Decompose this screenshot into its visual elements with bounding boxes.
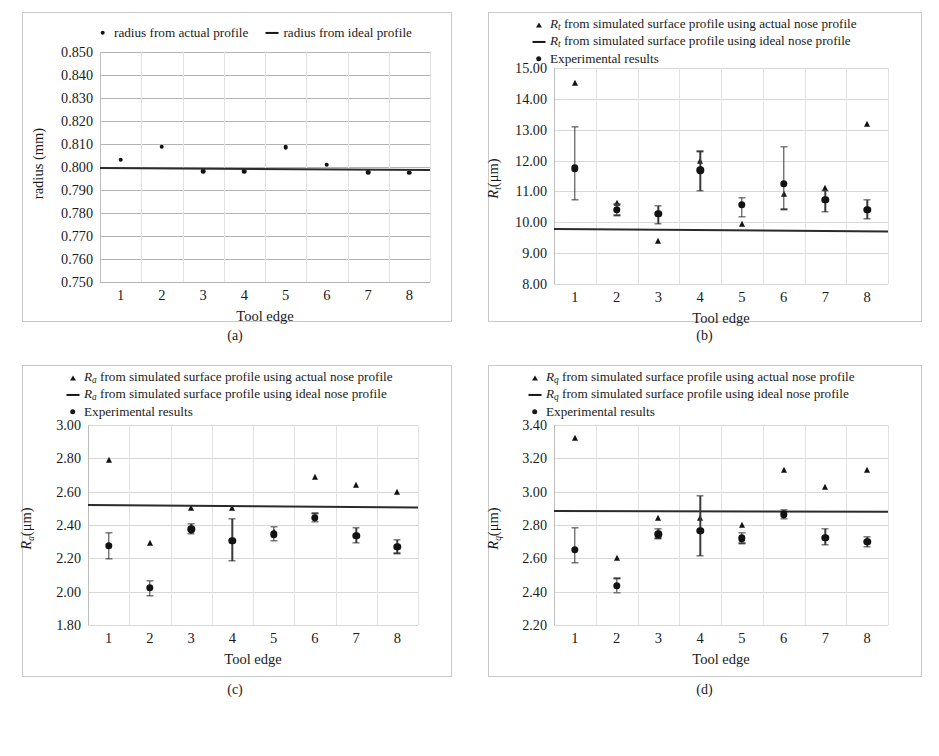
- gridline-vertical: [846, 68, 847, 284]
- y-axis-tick-label: 9.00: [522, 245, 547, 262]
- y-axis-tick-label: 0.790: [61, 182, 93, 199]
- error-bar-cap: [655, 223, 662, 224]
- y-axis-tick-label: 2.40: [56, 517, 81, 534]
- data-point-triangle: [822, 483, 828, 489]
- gridline-vertical: [888, 425, 889, 625]
- x-axis-tick-label: 7: [822, 630, 829, 647]
- x-axis-tick-label: 2: [158, 287, 165, 304]
- data-point-dot: [325, 162, 330, 167]
- x-axis-tick-label: 1: [571, 630, 578, 647]
- y-axis-tick-label: 2.60: [522, 550, 547, 567]
- gridline-horizontal: [100, 282, 430, 283]
- error-bar-cap: [697, 495, 704, 496]
- y-axis-tick-label: 2.20: [522, 617, 547, 634]
- error-bar-cap: [394, 553, 401, 554]
- legend-row: Rt from simulated surface profile using …: [532, 16, 857, 33]
- x-axis-tick-label: 3: [655, 289, 662, 306]
- y-axis-tick-label: 0.800: [61, 159, 93, 176]
- panel-c-y-axis-label: Ra(μm): [18, 469, 35, 589]
- y-axis-tick-label: 2.00: [56, 583, 81, 600]
- panel-a: radius from actual profile radius from i…: [0, 0, 470, 355]
- error-bar: [574, 127, 575, 200]
- error-bar-cap: [571, 126, 578, 127]
- legend-label: Rt from simulated surface profile using …: [550, 32, 851, 51]
- data-point-triangle: [655, 515, 661, 521]
- error-bar-cap: [229, 560, 236, 561]
- y-axis-tick-label: 0.830: [61, 90, 93, 107]
- data-point-triangle: [312, 473, 318, 479]
- error-bar-cap: [864, 199, 871, 200]
- panel-a-y-axis-label: radius (mm): [30, 104, 47, 224]
- panel-b: Rt from simulated surface profile using …: [470, 0, 939, 355]
- data-point-triangle: [614, 555, 620, 561]
- error-bar-cap: [822, 544, 829, 545]
- x-axis-tick-label: 2: [613, 630, 620, 647]
- gridline-horizontal: [88, 625, 418, 626]
- y-axis-line: [554, 425, 555, 625]
- y-axis-tick-label: 2.80: [56, 450, 81, 467]
- y-axis-tick-label: 13.00: [515, 121, 547, 138]
- legend-row: Rq from simulated surface profile using …: [528, 386, 855, 403]
- y-axis-tick-label: 0.850: [61, 44, 93, 61]
- gridline-vertical: [430, 52, 431, 282]
- y-axis-tick-label: 3.40: [522, 417, 547, 434]
- panel-c-legend: Ra from simulated surface profile using …: [66, 369, 393, 420]
- legend-row: radius from actual profile radius from i…: [96, 24, 412, 41]
- data-point-dot: [283, 145, 288, 150]
- panel-c-caption: (c): [0, 682, 470, 698]
- triangle-marker-icon: [66, 371, 79, 384]
- x-axis-tick-label: 1: [105, 630, 112, 647]
- gridline-vertical: [212, 425, 213, 625]
- error-bar-cap: [613, 204, 620, 205]
- error-bar-cap: [738, 532, 745, 533]
- error-bar-cap: [188, 534, 195, 535]
- gridline-vertical: [171, 425, 172, 625]
- data-point-dot: [118, 157, 123, 162]
- error-bar-cap: [738, 197, 745, 198]
- error-bar-cap: [655, 205, 662, 206]
- panel-d: Rq from simulated surface profile using …: [470, 355, 939, 756]
- figure-four-panel-chart: radius from actual profile radius from i…: [0, 0, 939, 756]
- legend-row: Experimental results: [66, 403, 393, 420]
- x-axis-tick-label: 7: [365, 287, 372, 304]
- x-axis-tick-label: 6: [780, 630, 787, 647]
- error-bar-cap: [864, 546, 871, 547]
- gridline-vertical: [638, 425, 639, 625]
- legend-label: Ra from simulated surface profile using …: [84, 385, 387, 404]
- x-axis-tick-label: 2: [613, 289, 620, 306]
- y-axis-tick-label: 0.750: [61, 274, 93, 291]
- legend-row: Ra from simulated surface profile using …: [66, 386, 393, 403]
- y-axis-tick-label: 0.820: [61, 113, 93, 130]
- x-axis-tick-label: 6: [311, 630, 318, 647]
- error-bar-cap: [146, 580, 153, 581]
- gridline-horizontal: [554, 625, 888, 626]
- data-point-triangle: [147, 540, 153, 546]
- x-axis-tick-label: 6: [780, 289, 787, 306]
- data-point-triangle: [739, 220, 745, 226]
- gridline-vertical: [888, 68, 889, 284]
- legend-label: Rq from simulated surface profile using …: [546, 368, 855, 387]
- x-axis-tick-label: 8: [406, 287, 413, 304]
- error-bar-cap: [613, 215, 620, 216]
- triangle-marker-icon: [528, 371, 541, 384]
- error-bar: [699, 496, 700, 556]
- gridline-vertical: [377, 425, 378, 625]
- error-bar-cap: [394, 539, 401, 540]
- error-bar-cap: [697, 190, 704, 191]
- x-axis-tick-label: 7: [822, 289, 829, 306]
- x-axis-tick-label: 2: [146, 630, 153, 647]
- error-bar-cap: [270, 526, 277, 527]
- error-bar: [783, 147, 784, 210]
- legend-row: Experimental results: [528, 403, 855, 420]
- data-point-triangle: [353, 482, 359, 488]
- data-point-triangle: [781, 467, 787, 473]
- panel-b-y-axis-label: Rt(μm): [485, 119, 502, 239]
- panel-a-plot-area: 0.7500.7600.7700.7800.7900.8000.8100.820…: [100, 52, 430, 282]
- gridline-vertical: [763, 68, 764, 284]
- data-point-triangle: [864, 120, 870, 126]
- x-axis-tick-label: 3: [200, 287, 207, 304]
- panel-d-plot-area: 2.202.402.602.803.003.203.4012345678Tool…: [554, 425, 888, 625]
- gridline-vertical: [805, 68, 806, 284]
- gridline-vertical: [294, 425, 295, 625]
- gridline-vertical: [253, 425, 254, 625]
